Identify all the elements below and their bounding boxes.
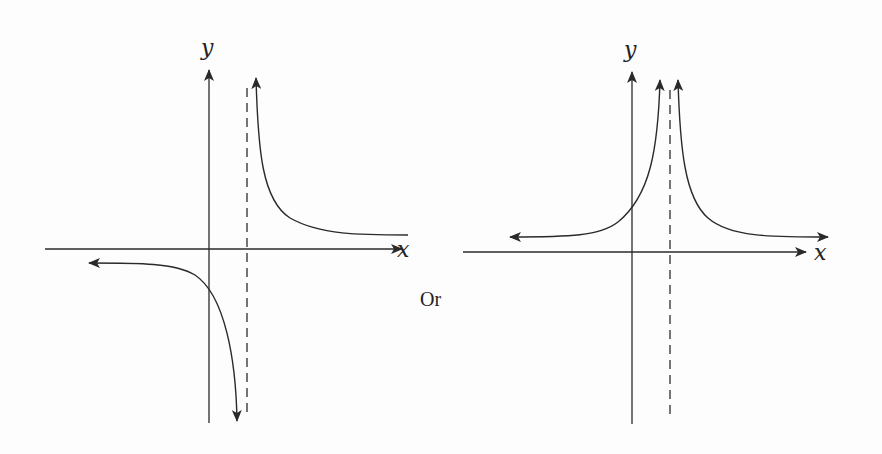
or-connector: Or (420, 288, 441, 310)
right-y-axis-label: y (623, 37, 637, 62)
right-graph: y x (463, 37, 828, 424)
right-graph-right-branch (678, 80, 828, 237)
right-x-axis-label: x (814, 240, 827, 265)
left-graph-left-branch (89, 263, 237, 421)
left-graph-right-branch (256, 78, 408, 235)
left-x-axis-label: x (397, 237, 410, 262)
left-y-axis-label: y (200, 35, 214, 60)
left-graph: y x (45, 35, 410, 423)
right-graph-left-branch (510, 80, 660, 237)
asymptote-diagram: y x Or y x (0, 0, 882, 454)
diagram-svg: y x Or y x (0, 0, 882, 454)
